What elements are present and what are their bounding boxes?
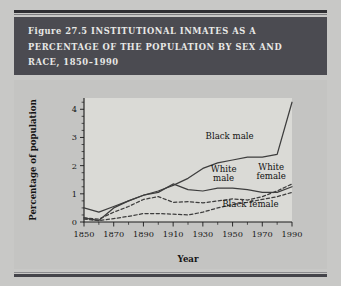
y-tick-label: 0 — [72, 217, 77, 227]
x-tick-label: 1890 — [133, 229, 154, 239]
bottom-rule-highlight — [14, 272, 327, 273]
figure-title-banner: Figure 27.5 INSTITUTIONAL INMATES AS A P… — [14, 17, 327, 75]
top-rule-highlight — [14, 14, 327, 15]
series-label-white-male: male — [213, 173, 234, 183]
x-axis-label: Year — [177, 254, 199, 264]
x-tick-label: 1990 — [282, 229, 303, 239]
figure-container: Figure 27.5 INSTITUTIONAL INMATES AS A P… — [0, 0, 341, 286]
bottom-rule — [14, 274, 327, 277]
x-tick-label: 1870 — [103, 229, 124, 239]
series-label-white-female: female — [257, 171, 286, 181]
x-tick-label: 1850 — [74, 229, 95, 239]
figure-title-line-1: Figure 27.5 INSTITUTIONAL INMATES AS A — [28, 24, 315, 40]
plot-area: 0123418501870189019101930195019701990 Bl… — [14, 80, 327, 269]
figure-title-line-3: RACE, 1850–1990 — [28, 55, 315, 71]
line-chart: 0123418501870189019101930195019701990 Bl… — [14, 80, 327, 269]
x-tick-label: 1970 — [252, 229, 273, 239]
x-tick-label: 1910 — [163, 229, 184, 239]
y-axis-label: Percentage of population — [28, 98, 38, 220]
series-label-black-female: Black female — [222, 199, 278, 209]
top-rule — [14, 10, 327, 13]
chart-plate: 0123418501870189019101930195019701990 Bl… — [14, 80, 327, 269]
series-label-black-male: Black male — [206, 131, 254, 141]
y-tick-label: 3 — [72, 132, 77, 142]
y-tick-label: 2 — [72, 161, 77, 171]
x-tick-label: 1930 — [192, 229, 213, 239]
x-tick-label: 1950 — [222, 229, 243, 239]
figure-title-line-2: PERCENTAGE OF THE POPULATION BY SEX AND — [28, 40, 315, 56]
y-tick-label: 1 — [72, 189, 77, 199]
y-tick-label: 4 — [72, 104, 77, 114]
